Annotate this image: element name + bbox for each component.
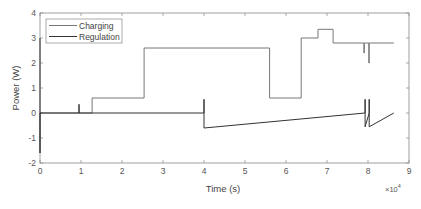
y-tick-label: -2	[28, 158, 36, 168]
legend: Charging Regulation	[46, 19, 122, 43]
legend-label-regulation: Regulation	[79, 32, 120, 42]
y-axis-label: Power (W)	[10, 66, 21, 111]
x-tick-label: 3	[161, 166, 166, 176]
x-tick-label: 5	[243, 166, 248, 176]
y-tick-label: 2	[31, 58, 36, 68]
cropped-caption	[0, 203, 421, 209]
y-tick-label: 1	[31, 83, 36, 93]
y-tick-label: 4	[31, 8, 36, 18]
power-chart: 0123456789-2-101234 Charging Regulation …	[0, 0, 421, 209]
x-tick-label: 4	[202, 166, 207, 176]
series-layer	[40, 29, 394, 153]
x-tick-label: 9	[407, 166, 412, 176]
y-tick-label: 3	[31, 33, 36, 43]
x-tick-label: 8	[366, 166, 371, 176]
x-tick-label: 7	[325, 166, 330, 176]
x-axis-label: Time (s)	[206, 183, 240, 194]
y-tick-label: -1	[28, 133, 36, 143]
series-regulation	[40, 38, 394, 153]
legend-label-charging: Charging	[79, 21, 114, 31]
y-tick-label: 0	[31, 108, 36, 118]
x-tick-label: 1	[79, 166, 84, 176]
x-multiplier-label: ×104	[385, 183, 401, 194]
x-tick-label: 6	[284, 166, 289, 176]
x-tick-label: 2	[120, 166, 125, 176]
x-tick-label: 0	[38, 166, 43, 176]
